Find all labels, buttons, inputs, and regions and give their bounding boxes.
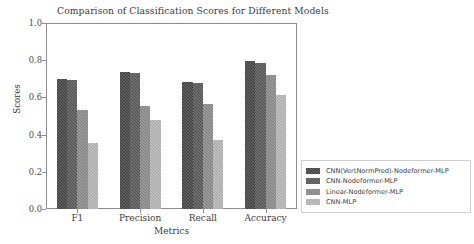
y-tick-mark (42, 172, 46, 173)
legend-item: CNN-MLP (306, 197, 465, 207)
x-tick-label-f1: F1 (42, 213, 112, 223)
bar-f1-series2 (77, 110, 87, 209)
bar-recall-series3 (213, 140, 223, 209)
bar-precision-series3 (150, 120, 160, 209)
legend-swatch-icon (306, 199, 320, 205)
y-tick-label: 0.6 (8, 92, 42, 102)
y-tick-mark (42, 97, 46, 98)
y-tick-mark (42, 60, 46, 61)
bar-precision-series1 (130, 73, 140, 209)
legend-swatch-icon (306, 168, 320, 174)
x-tick-label-accuracy: Accuracy (231, 213, 301, 223)
bar-f1-series0 (57, 79, 67, 209)
y-tick-label: 0.0 (8, 204, 42, 214)
bar-recall-series0 (182, 82, 192, 209)
chart-title: Comparison of Classification Scores for … (57, 5, 307, 16)
bar-accuracy-series0 (245, 61, 255, 209)
bar-accuracy-series2 (266, 75, 276, 209)
legend-label: CNN-MLP (326, 198, 356, 206)
bar-recall-series2 (203, 104, 213, 209)
legend-label: CNN(VertNormPred)-Nodeformer-MLP (326, 167, 449, 175)
y-tick-label: 0.4 (8, 130, 42, 140)
legend-item: Linear-Nodeformer-MLP (306, 187, 465, 197)
y-tick-mark (42, 135, 46, 136)
legend-item: CNN-Nodeformer-MLP (306, 176, 465, 186)
y-tick-mark (42, 209, 46, 210)
y-tick-label: 0.2 (8, 167, 42, 177)
chart-legend: CNN(VertNormPred)-Nodeformer-MLPCNN-Node… (301, 160, 471, 213)
legend-swatch-icon (306, 178, 320, 184)
bar-accuracy-series3 (276, 95, 286, 209)
x-tick-label-recall: Recall (168, 213, 238, 223)
bar-accuracy-series1 (255, 63, 265, 209)
figure-canvas: Comparison of Classification Scores for … (0, 0, 474, 244)
bar-precision-series2 (140, 106, 150, 209)
legend-label: CNN-Nodeformer-MLP (326, 177, 398, 185)
y-tick-label: 1.0 (8, 18, 42, 28)
bar-recall-series1 (193, 83, 203, 209)
bar-f1-series1 (67, 80, 77, 209)
bar-precision-series0 (120, 72, 130, 209)
legend-swatch-icon (306, 189, 320, 195)
legend-label: Linear-Nodeformer-MLP (326, 188, 403, 196)
plot-area (47, 24, 296, 209)
y-tick-label: 0.8 (8, 55, 42, 65)
x-axis-label: Metrics (46, 226, 297, 236)
y-axis-tick-labels: 0.00.20.40.60.81.0 (4, 0, 42, 244)
bar-f1-series3 (88, 143, 98, 209)
y-tick-mark (42, 23, 46, 24)
legend-item: CNN(VertNormPred)-Nodeformer-MLP (306, 166, 465, 176)
x-tick-label-precision: Precision (105, 213, 175, 223)
